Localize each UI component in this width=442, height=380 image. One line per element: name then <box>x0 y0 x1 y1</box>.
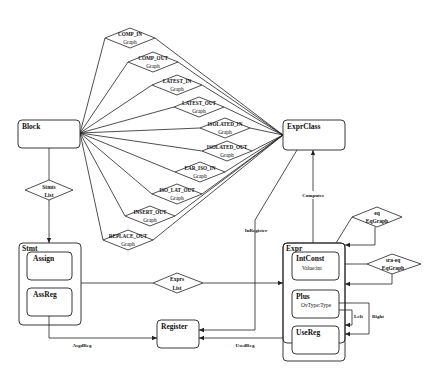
edge-label-computes: Computes <box>302 193 324 198</box>
rel-name: LATEST_OUT <box>182 100 216 106</box>
subentity-usereg[interactable]: UseReg <box>292 326 339 354</box>
rel-ear-iso-in[interactable]: EAR_ISO_IN Graph <box>175 162 225 182</box>
subentity-intconst[interactable]: IntConst Value:int <box>292 252 339 280</box>
subentity-plus[interactable]: Plus OvType:Type <box>292 290 339 318</box>
rel-name: EAR_ISO_IN <box>185 165 216 171</box>
entity-label: IntConst <box>296 254 325 263</box>
er-diagram: COMP_IN Graph COMP_OUT Graph LATEST_IN G… <box>0 0 442 380</box>
entity-expr-class[interactable]: ExprClass <box>283 120 345 150</box>
subentity-assign[interactable]: Assign <box>27 252 72 280</box>
entity-expr[interactable]: Expr IntConst Value:int Plus OvType:Type… <box>283 243 345 354</box>
edge-eq-in <box>336 217 352 243</box>
graph-fan-lines <box>80 38 283 240</box>
edge-label-left: Left <box>354 314 363 319</box>
entity-label: Register <box>161 322 188 331</box>
subentity-assreg[interactable]: AssReg <box>27 288 72 316</box>
edge-label-right: Right <box>372 314 384 319</box>
entity-label: Assign <box>33 254 55 263</box>
rel-isolated-in[interactable]: ISOLATED_IN Graph <box>200 118 250 138</box>
rel-insert-out[interactable]: INSERT_OUT Graph <box>125 206 175 226</box>
rel-line1: Exprs <box>170 276 184 282</box>
rel-line2: List <box>172 285 181 291</box>
edge-label-usedreg: UsedReg <box>236 343 255 348</box>
rel-type: Graph <box>192 108 206 114</box>
rel-type: Graph <box>123 39 137 45</box>
rel-line2: EqGraph <box>366 218 388 224</box>
edge-eq-out <box>345 227 375 245</box>
entity-label: ExprClass <box>287 122 320 131</box>
rel-name: LATEST_IN <box>163 78 192 84</box>
rel-line1: Stmts <box>42 184 55 190</box>
entity-block[interactable]: Block <box>18 120 80 148</box>
entity-stmt[interactable]: Stmt Assign AssReg <box>19 243 81 325</box>
rel-type: Graph <box>218 129 232 135</box>
entity-label: Block <box>22 122 41 131</box>
entity-label: Plus <box>296 292 310 301</box>
entity-label: AssReg <box>33 290 57 299</box>
rel-line2: List <box>44 192 53 198</box>
rel-line1: sra-eq <box>386 257 402 263</box>
rel-comp-in[interactable]: COMP_IN Graph <box>105 28 155 48</box>
entity-label: UseReg <box>296 328 320 337</box>
rel-type: Graph <box>193 173 207 179</box>
rel-latest-in[interactable]: LATEST_IN Graph <box>152 75 202 95</box>
entity-attr: Value:int <box>302 265 322 271</box>
rel-name: REPLACE_OUT <box>109 233 148 239</box>
rel-name: ISO_LAT_OUT <box>159 187 195 193</box>
rel-type: Graph <box>220 152 234 158</box>
rel-comp-out[interactable]: COMP_OUT Graph <box>128 52 178 72</box>
graph-relationships: COMP_IN Graph COMP_OUT Graph LATEST_IN G… <box>103 28 252 250</box>
rel-isolated-out[interactable]: ISOLATED_OUT Graph <box>202 141 252 161</box>
rel-type: Graph <box>121 241 135 247</box>
rel-name: COMP_IN <box>118 31 142 37</box>
rel-line1: eq <box>374 210 380 216</box>
rel-sra-eq[interactable]: sra-eq EqGraph <box>367 254 421 274</box>
rel-line2: EqGraph <box>382 265 404 271</box>
rel-eq[interactable]: eq EqGraph <box>352 207 402 227</box>
rel-type: Graph <box>146 63 160 69</box>
rel-replace-out[interactable]: REPLACE_OUT Graph <box>103 230 153 250</box>
rel-type: Graph <box>170 195 184 201</box>
rel-latest-out[interactable]: LATEST_OUT Graph <box>174 97 224 117</box>
edge-inregister <box>199 150 297 330</box>
rel-exprs-list[interactable]: Exprs List <box>153 273 203 293</box>
entity-register[interactable]: Register <box>157 320 199 348</box>
rel-stmts-list[interactable]: Stmts List <box>25 180 73 200</box>
edge-label-asgdreg: AsgdReg <box>72 343 92 348</box>
rel-name: ISOLATED_IN <box>208 121 243 127</box>
entity-attr: OvType:Type <box>301 302 332 308</box>
edge-sra-out <box>345 274 392 284</box>
edge-label-inregister: InRegister <box>245 228 268 233</box>
rel-type: Graph <box>143 217 157 223</box>
rel-name: COMP_OUT <box>138 55 168 61</box>
rel-name: ISOLATED_OUT <box>207 144 248 150</box>
rel-name: INSERT_OUT <box>134 209 168 215</box>
rel-type: Graph <box>170 86 184 92</box>
